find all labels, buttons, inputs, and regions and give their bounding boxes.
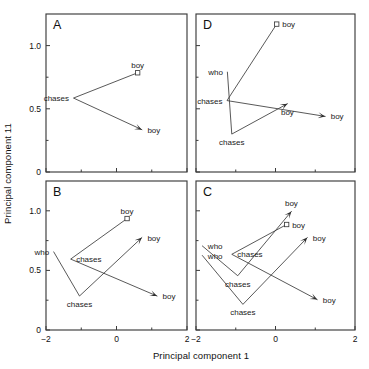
figure-container: Principal component 11 Principal compone… bbox=[0, 0, 369, 369]
point-label-boy: boy bbox=[331, 112, 344, 121]
x-tick-label: 0 bbox=[273, 334, 278, 344]
square-marker bbox=[284, 222, 288, 226]
square-marker bbox=[125, 216, 129, 220]
point-label-who: who bbox=[35, 247, 50, 256]
point-label-boy: boy bbox=[163, 292, 176, 301]
vector-path-C-1 bbox=[232, 225, 317, 300]
point-label-chases: chases bbox=[44, 94, 69, 103]
point-label-chases: chases bbox=[67, 300, 92, 309]
x-tick-label: 0 bbox=[114, 334, 119, 344]
point-label-boy: boy bbox=[292, 220, 305, 229]
vector-path-A-1 bbox=[74, 73, 142, 130]
point-label-boy: boy bbox=[147, 125, 160, 134]
y-tick-label: 0.5 bbox=[29, 265, 41, 275]
x-tick-label: −2 bbox=[191, 334, 201, 344]
point-label-chases: chases bbox=[237, 250, 262, 259]
x-tick-label: 2 bbox=[353, 334, 358, 344]
point-label-who: who bbox=[208, 241, 223, 250]
point-label-chases: chases bbox=[76, 255, 101, 264]
point-label-chases: chases bbox=[225, 279, 250, 288]
point-label-boy: boy bbox=[313, 233, 326, 242]
vector-path-B-2 bbox=[54, 238, 142, 296]
y-tick-label: 0.5 bbox=[29, 104, 41, 114]
panel-letter-C: C bbox=[203, 185, 212, 199]
point-label-who: who bbox=[208, 251, 223, 260]
y-tick-label: 0 bbox=[36, 325, 41, 335]
point-label-boy: boy bbox=[121, 206, 134, 215]
arrow-head bbox=[309, 294, 317, 300]
square-marker bbox=[135, 71, 139, 75]
y-tick-label: 1.0 bbox=[29, 41, 41, 51]
panel-frame-D bbox=[196, 14, 355, 172]
vector-path-D-2 bbox=[227, 72, 287, 134]
point-label-boy: boy bbox=[323, 295, 336, 304]
point-label-boy: boy bbox=[147, 233, 160, 242]
point-label-boy: boy bbox=[281, 107, 294, 116]
point-label-boy: boy bbox=[285, 199, 298, 208]
point-label-chases: chases bbox=[197, 96, 222, 105]
point-label-boy: boy bbox=[282, 20, 295, 29]
point-label-chases: chases bbox=[219, 138, 244, 147]
x-tick-label: −2 bbox=[41, 334, 51, 344]
point-label-chases: chases bbox=[230, 308, 255, 317]
vector-path-D-1 bbox=[227, 24, 325, 116]
panel-letter-D: D bbox=[203, 18, 212, 32]
point-label-boy: boy bbox=[131, 60, 144, 69]
x-tick-label: 2 bbox=[185, 334, 190, 344]
point-label-who: who bbox=[208, 68, 223, 77]
square-marker bbox=[274, 22, 278, 26]
panel-letter-B: B bbox=[53, 185, 61, 199]
y-tick-label: 0 bbox=[36, 167, 41, 177]
panel-letter-A: A bbox=[53, 18, 61, 32]
y-tick-label: 1.0 bbox=[29, 206, 41, 216]
